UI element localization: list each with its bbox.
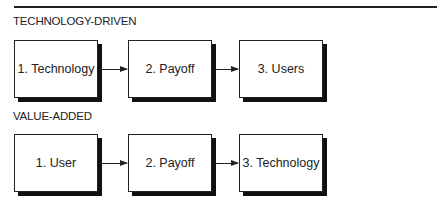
step-label: 1. User bbox=[36, 156, 76, 170]
step-box-user: 1. User bbox=[14, 134, 98, 192]
arrow-right-icon bbox=[100, 163, 127, 164]
arrow-right-icon bbox=[214, 163, 238, 164]
step-box-technology: 3. Technology bbox=[239, 134, 323, 192]
step-label: 2. Payoff bbox=[145, 156, 194, 170]
section-title-technology-driven: TECHNOLOGY-DRIVEN bbox=[13, 15, 136, 27]
top-rule bbox=[14, 6, 437, 8]
step-box-payoff: 2. Payoff bbox=[128, 134, 212, 192]
step-label: 1. Technology bbox=[18, 62, 95, 76]
step-label: 2. Payoff bbox=[145, 62, 194, 76]
step-label: 3. Technology bbox=[243, 156, 320, 170]
section-title-value-added: VALUE-ADDED bbox=[13, 110, 92, 122]
step-box-payoff: 2. Payoff bbox=[128, 40, 212, 98]
arrow-right-icon bbox=[100, 69, 127, 70]
arrow-right-icon bbox=[214, 69, 238, 70]
step-label: 3. Users bbox=[258, 62, 305, 76]
step-box-technology: 1. Technology bbox=[14, 40, 98, 98]
step-box-users: 3. Users bbox=[239, 40, 323, 98]
